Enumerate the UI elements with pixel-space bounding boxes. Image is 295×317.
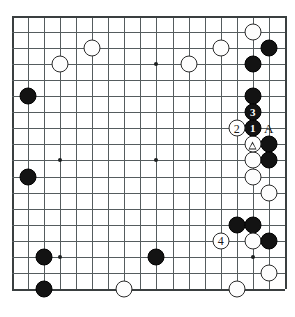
grid-line-horizontal bbox=[12, 209, 285, 210]
star-point bbox=[154, 158, 158, 162]
white-stone[interactable] bbox=[212, 40, 229, 57]
black-stone[interactable] bbox=[244, 88, 261, 105]
white-stone[interactable] bbox=[116, 280, 133, 297]
star-point bbox=[154, 62, 158, 66]
black-stone[interactable] bbox=[260, 136, 277, 153]
grid-line-vertical bbox=[140, 16, 141, 289]
black-stone[interactable] bbox=[244, 56, 261, 73]
black-stone[interactable] bbox=[20, 168, 37, 185]
grid-line-vertical bbox=[108, 16, 109, 289]
star-point bbox=[58, 158, 62, 162]
point-letter-label-A[interactable]: A bbox=[264, 122, 273, 135]
grid-line-vertical bbox=[12, 16, 14, 289]
black-stone[interactable] bbox=[260, 40, 277, 57]
white-stone[interactable] bbox=[84, 40, 101, 57]
move-number-label: 4 bbox=[218, 235, 224, 247]
grid-line-vertical bbox=[28, 16, 29, 289]
grid-line-vertical bbox=[237, 16, 238, 289]
white-stone[interactable] bbox=[180, 56, 197, 73]
grid-line-vertical bbox=[205, 16, 206, 289]
black-stone[interactable] bbox=[36, 248, 53, 265]
star-point bbox=[251, 255, 255, 259]
go-board[interactable]: 1234A bbox=[12, 16, 287, 291]
grid-line-horizontal bbox=[12, 48, 285, 49]
move-stone-1[interactable]: 1 bbox=[244, 120, 261, 137]
grid-line-vertical bbox=[92, 16, 93, 289]
white-stone[interactable] bbox=[244, 24, 261, 41]
move-number-label: 2 bbox=[234, 122, 240, 134]
white-stone[interactable] bbox=[260, 184, 277, 201]
white-stone[interactable] bbox=[52, 56, 69, 73]
go-diagram-container: 1234A bbox=[0, 0, 295, 317]
white-stone[interactable] bbox=[228, 280, 245, 297]
black-stone[interactable] bbox=[36, 280, 53, 297]
move-stone-4[interactable]: 4 bbox=[212, 232, 229, 249]
move-stone-3[interactable]: 3 bbox=[244, 104, 261, 121]
star-point bbox=[58, 255, 62, 259]
black-stone[interactable] bbox=[228, 216, 245, 233]
grid-line-vertical bbox=[173, 16, 174, 289]
white-stone[interactable] bbox=[244, 168, 261, 185]
grid-line-horizontal bbox=[12, 80, 285, 81]
black-stone[interactable] bbox=[148, 248, 165, 265]
move-number-label: 1 bbox=[250, 123, 256, 134]
white-stone[interactable] bbox=[244, 152, 261, 169]
black-stone[interactable] bbox=[244, 216, 261, 233]
triangle-icon bbox=[249, 141, 257, 149]
triangle-marked-white-stone[interactable] bbox=[244, 136, 261, 153]
grid-line-vertical bbox=[285, 16, 287, 289]
grid-line-vertical bbox=[76, 16, 77, 289]
move-stone-2[interactable]: 2 bbox=[228, 120, 245, 137]
grid-line-horizontal bbox=[12, 193, 285, 194]
white-stone[interactable] bbox=[244, 232, 261, 249]
grid-line-vertical bbox=[124, 16, 125, 289]
grid-line-horizontal bbox=[12, 16, 285, 18]
move-number-label: 3 bbox=[250, 107, 256, 118]
white-stone[interactable] bbox=[260, 264, 277, 281]
black-stone[interactable] bbox=[20, 88, 37, 105]
black-stone[interactable] bbox=[260, 232, 277, 249]
black-stone[interactable] bbox=[260, 152, 277, 169]
grid-line-horizontal bbox=[12, 273, 285, 274]
